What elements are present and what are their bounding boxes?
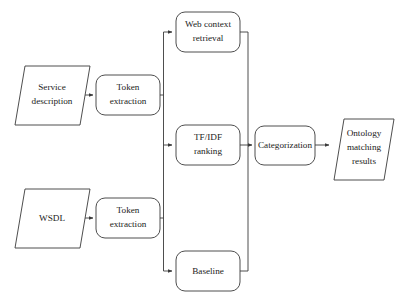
token-extraction-top-shape bbox=[96, 75, 160, 115]
node-categorization[interactable]: Categorization bbox=[255, 126, 315, 165]
node-web-context-retrieval[interactable]: Web context retrieval bbox=[176, 12, 240, 52]
diagram-canvas: Service description Token extraction WSD… bbox=[0, 0, 404, 304]
service-description-label-line-2: description bbox=[32, 96, 73, 106]
tfidf-ranking-shape bbox=[176, 125, 240, 165]
baseline-label: Baseline bbox=[192, 266, 224, 276]
ontology-matching-results-label-line-2: matching bbox=[347, 142, 382, 152]
wsdl-label: WSDL bbox=[39, 213, 65, 223]
node-service-description[interactable]: Service description bbox=[15, 66, 90, 125]
node-token-extraction-bottom[interactable]: Token extraction bbox=[96, 198, 160, 238]
categorization-label: Categorization bbox=[258, 140, 312, 150]
tfidf-ranking-label-line-1: TF/IDF bbox=[194, 132, 222, 142]
node-wsdl[interactable]: WSDL bbox=[15, 189, 90, 248]
flowchart: Service description Token extraction WSD… bbox=[0, 0, 404, 304]
node-ontology-matching-results[interactable]: Ontology matching results bbox=[334, 119, 394, 180]
token-extraction-bottom-label-line-1: Token bbox=[117, 205, 140, 215]
token-extraction-top-label-line-2: extraction bbox=[110, 96, 147, 106]
web-context-retrieval-label-line-1: Web context bbox=[185, 19, 231, 29]
token-extraction-bottom-shape bbox=[96, 198, 160, 238]
web-context-retrieval-shape bbox=[176, 12, 240, 52]
token-extraction-top-label-line-1: Token bbox=[117, 82, 140, 92]
service-description-label-line-1: Service bbox=[38, 82, 66, 92]
node-tfidf-ranking[interactable]: TF/IDF ranking bbox=[176, 125, 240, 165]
ontology-matching-results-label-line-3: results bbox=[352, 156, 376, 166]
web-context-retrieval-label-line-2: retrieval bbox=[193, 33, 224, 43]
token-extraction-bottom-label-line-2: extraction bbox=[110, 219, 147, 229]
ontology-matching-results-label-line-1: Ontology bbox=[347, 128, 382, 138]
tfidf-ranking-label-line-2: ranking bbox=[194, 146, 222, 156]
node-baseline[interactable]: Baseline bbox=[176, 251, 240, 291]
node-token-extraction-top[interactable]: Token extraction bbox=[96, 75, 160, 115]
